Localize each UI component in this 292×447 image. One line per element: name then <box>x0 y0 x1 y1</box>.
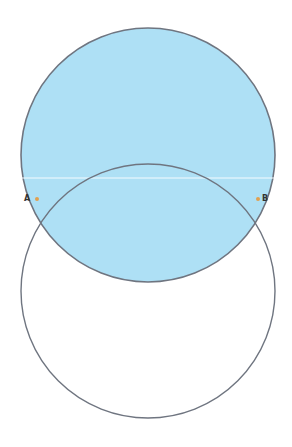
top-circle-shaded <box>21 28 275 282</box>
label-a: A <box>24 194 31 203</box>
intersection-point-a <box>35 197 39 201</box>
intersection-point-b <box>256 197 260 201</box>
circles-diagram: A B <box>0 0 292 447</box>
label-b: B <box>262 194 268 203</box>
